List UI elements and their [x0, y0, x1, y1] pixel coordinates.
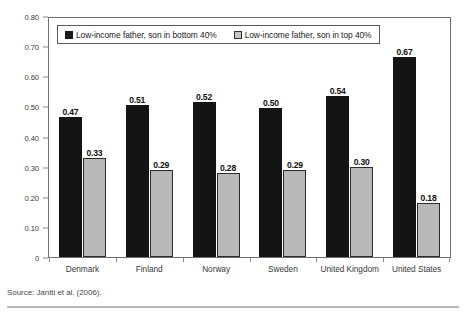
bar[interactable]: 0.29: [283, 170, 306, 257]
x-axis-tick-label: Sweden: [268, 264, 298, 274]
bar-value-label: 0.33: [86, 148, 102, 158]
x-axis-tick-mark: [250, 258, 251, 262]
bar[interactable]: 0.54: [326, 96, 349, 257]
y-axis-tick-label: 0.30: [25, 163, 39, 172]
y-axis-tick-label: 0.50: [25, 103, 39, 112]
bar-value-label: 0.67: [397, 47, 413, 57]
x-axis-tick-label: Finland: [136, 264, 163, 274]
x-axis-tick-label: United Kingdom: [321, 264, 379, 274]
bar-group: 0.670.18: [383, 18, 450, 257]
x-axis-tick-mark: [316, 258, 317, 262]
bar[interactable]: 0.51: [126, 105, 149, 257]
source-note: Source: Jantti et al. (2006).: [7, 288, 102, 297]
x-axis: DenmarkFinlandNorwaySwedenUnited Kingdom…: [49, 258, 450, 280]
bar-group: 0.510.29: [116, 18, 183, 257]
bars-layer: 0.470.330.510.290.520.280.500.290.540.30…: [49, 18, 450, 257]
bar-value-label: 0.52: [196, 92, 212, 102]
bar-group: 0.470.33: [49, 18, 116, 257]
y-axis-tick-label: 0.60: [25, 73, 39, 82]
x-axis-tick-mark: [449, 258, 450, 262]
figure-container: 0.800.700.600.500.400.300.200.100 Low-in…: [0, 0, 468, 317]
x-axis-tick-mark: [116, 258, 117, 262]
bar[interactable]: 0.29: [150, 170, 173, 257]
y-axis-tick-label: 0.10: [25, 223, 39, 232]
y-axis: 0.800.700.600.500.400.300.200.100: [0, 17, 48, 258]
bar-value-label: 0.51: [129, 95, 145, 105]
bar-group: 0.540.30: [316, 18, 383, 257]
bar-group: 0.500.29: [250, 18, 317, 257]
bar[interactable]: 0.52: [193, 102, 216, 257]
bar-value-label: 0.47: [62, 107, 78, 117]
bottom-divider: [7, 306, 459, 308]
bar-value-label: 0.50: [263, 98, 279, 108]
bar-group: 0.520.28: [183, 18, 250, 257]
y-axis-tick-label: 0.40: [25, 133, 39, 142]
bar-value-label: 0.29: [287, 160, 303, 170]
bar-value-label: 0.29: [153, 160, 169, 170]
y-axis-tick-label: 0.20: [25, 193, 39, 202]
bar-value-label: 0.54: [330, 86, 346, 96]
x-axis-tick-label: Norway: [202, 264, 230, 274]
bar[interactable]: 0.47: [59, 117, 82, 257]
x-axis-tick-mark: [383, 258, 384, 262]
bar[interactable]: 0.28: [217, 173, 240, 257]
y-axis-tick-label: 0.80: [25, 13, 39, 22]
bar[interactable]: 0.30: [350, 167, 373, 257]
x-axis-tick-mark: [49, 258, 50, 262]
bar-value-label: 0.18: [421, 193, 437, 203]
bar[interactable]: 0.18: [417, 203, 440, 257]
bar[interactable]: 0.33: [83, 158, 106, 257]
bar[interactable]: 0.67: [393, 57, 416, 257]
bar[interactable]: 0.50: [259, 108, 282, 257]
x-axis-tick-label: United States: [392, 264, 441, 274]
x-axis-tick-mark: [183, 258, 184, 262]
y-axis-tick-label: 0.70: [25, 43, 39, 52]
bar-value-label: 0.28: [220, 163, 236, 173]
x-axis-tick-label: Denmark: [66, 264, 99, 274]
y-axis-tick-label: 0: [35, 254, 39, 263]
bar-value-label: 0.30: [354, 157, 370, 167]
